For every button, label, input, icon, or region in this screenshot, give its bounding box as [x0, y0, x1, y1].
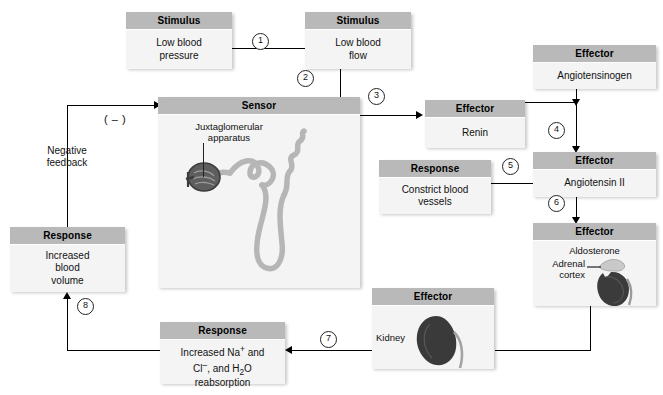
reabsorption-line-3: reabsorption [163, 377, 282, 389]
step-number-3: 3 [368, 88, 385, 105]
connector-3 [360, 115, 418, 116]
diagram-canvas: Stimulus Low blood pressure Stimulus Low… [0, 0, 663, 395]
sodium-symbol: Na [227, 347, 240, 358]
reabsorption-pre: Increased [181, 347, 228, 358]
node-stimulus-low-blood-flow[interactable]: Stimulus Low blood flow [305, 12, 411, 68]
node-body: Angiotensinogen [533, 63, 656, 89]
arrowhead-3 [416, 111, 423, 119]
node-body: Angiotensin II [533, 170, 656, 197]
node-header: Effector [372, 288, 494, 306]
node-body: Juxtaglomerular apparatus [158, 115, 360, 288]
water-oxygen: O [244, 363, 252, 374]
connector-8-left [67, 350, 160, 351]
node-header: Response [160, 322, 285, 340]
node-header: Response [379, 160, 491, 178]
step-number-4: 4 [548, 122, 565, 139]
node-response-constrict-blood-vessels[interactable]: Response Constrict blood vessels [379, 160, 491, 213]
reabsorption-post: and [245, 347, 264, 358]
node-header: Effector [533, 45, 656, 63]
node-body: Constrict blood vessels [379, 178, 491, 214]
connector-aldo-left [495, 350, 591, 351]
node-body: Aldosterone Adrenal cortex [533, 241, 656, 306]
negative-feedback-sign: ( – ) [104, 113, 126, 125]
node-header: Response [10, 227, 125, 245]
negative-feedback-label: Negative feedback [20, 145, 114, 169]
arrowhead-7 [285, 346, 292, 354]
node-header: Effector [533, 223, 656, 241]
step-number-5: 5 [502, 158, 519, 175]
connector-feedback-right [67, 105, 157, 106]
node-body: Low blood flow [305, 30, 411, 69]
connector-renin-right [525, 102, 577, 103]
step-number-8: 8 [77, 298, 94, 315]
node-header: Sensor [158, 97, 360, 115]
aldosterone-label: Aldosterone [533, 245, 656, 256]
node-body: Low blood pressure [126, 30, 232, 69]
node-effector-kidney[interactable]: Effector Kidney [372, 288, 494, 368]
connector-4 [576, 88, 577, 150]
node-effector-aldosterone[interactable]: Effector Aldosterone Adrenal cortex [533, 223, 656, 305]
chloride-symbol: Cl [193, 363, 202, 374]
sensor-callout-line [203, 143, 204, 177]
connector-8-up [67, 297, 68, 351]
connector-aldo-down [590, 304, 591, 351]
step-number-7: 7 [320, 331, 337, 348]
node-body: Increased blood volume [10, 245, 125, 292]
node-sensor-juxtaglomerular-apparatus[interactable]: Sensor [158, 97, 360, 287]
node-body: Renin [425, 118, 525, 148]
kidney-art-label: Kidney [376, 332, 426, 343]
node-body: Kidney [372, 306, 494, 369]
connector-7 [290, 350, 380, 351]
node-response-increased-blood-volume[interactable]: Response Increased blood volume [10, 227, 125, 291]
sensor-art-label: Juxtaglomerular apparatus [164, 121, 294, 144]
arrowhead-8 [63, 292, 71, 299]
node-effector-angiotensinogen[interactable]: Effector Angiotensinogen [533, 45, 656, 88]
step-number-2: 2 [297, 70, 314, 87]
node-response-reabsorption[interactable]: Response Increased Na+ and Cl–, and H2O … [160, 322, 285, 383]
node-body: Increased Na+ and Cl–, and H2O reabsorpt… [160, 340, 285, 384]
step-number-6: 6 [548, 195, 565, 212]
reabsorption-line-1: Increased Na+ and [163, 344, 282, 360]
node-header: Effector [533, 152, 656, 170]
reabsorption-line-2: Cl–, and H2O [163, 360, 282, 377]
node-header: Stimulus [305, 12, 411, 30]
aldosterone-art-label: Adrenal cortex [533, 258, 585, 281]
node-stimulus-low-blood-pressure[interactable]: Stimulus Low blood pressure [126, 12, 232, 68]
reabsorption-mid: , and H [207, 363, 239, 374]
node-header: Stimulus [126, 12, 232, 30]
node-effector-renin[interactable]: Effector Renin [425, 100, 525, 147]
node-effector-angiotensin-ii[interactable]: Effector Angiotensin II [533, 152, 656, 196]
step-number-1: 1 [252, 33, 269, 50]
node-header: Effector [425, 100, 525, 118]
arrowhead-4a [572, 99, 580, 106]
